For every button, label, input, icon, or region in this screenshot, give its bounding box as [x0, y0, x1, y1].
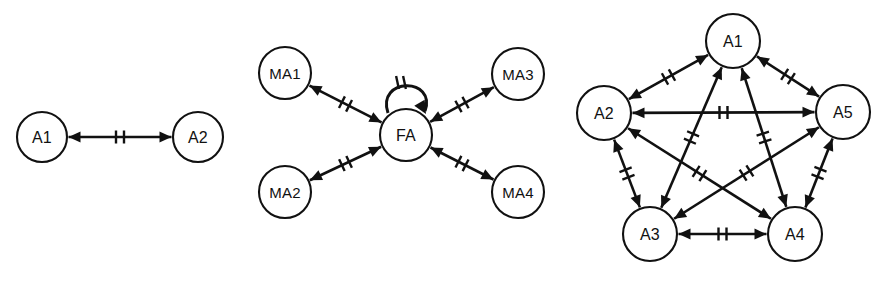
figure-canvas: A1A2MA1MA2MA3MA4FAA1A2A5A3A4: [0, 0, 872, 281]
edge-a1-a2[interactable]: [69, 131, 172, 144]
node-label: A1: [723, 33, 743, 50]
arrowhead-end: [777, 194, 787, 207]
arrowhead-end: [631, 194, 641, 207]
edge-a2-a4[interactable]: [628, 128, 771, 218]
arrowhead-start: [757, 56, 770, 67]
arrowhead-start: [69, 132, 81, 143]
edge-tick-mark: [781, 69, 788, 80]
node-ma1[interactable]: MA1: [259, 47, 311, 99]
arrowhead-end: [806, 85, 819, 96]
diagram-svg: A1A2MA1MA2MA3MA4FAA1A2A5A3A4: [0, 0, 872, 281]
two-agent-topology-edges: [69, 131, 172, 144]
edge-a4-a5[interactable]: [805, 139, 833, 208]
edge-line: [629, 55, 708, 99]
node-ma3[interactable]: MA3: [492, 48, 544, 100]
node-label: A3: [640, 226, 660, 243]
fully-connected-topology-nodes: A1A2A5A3A4: [577, 14, 870, 261]
node-label: A2: [188, 129, 208, 146]
edge-line: [309, 86, 381, 123]
edge-a1-a4[interactable]: [740, 68, 788, 207]
edge-line: [661, 67, 721, 208]
edge-fa-ma1[interactable]: [309, 86, 381, 123]
arrowhead-start: [632, 107, 644, 118]
edge-tick-mark: [693, 166, 700, 177]
edge-fa-ma4[interactable]: [431, 147, 494, 179]
edge-a1-a2[interactable]: [629, 55, 708, 99]
edge-fa-ma3[interactable]: [430, 87, 494, 122]
facilitator-star-topology-nodes: MA1MA2MA3MA4FA: [259, 47, 544, 218]
node-a5[interactable]: A5: [816, 85, 870, 139]
edge-a1-a5[interactable]: [757, 56, 819, 96]
edge-line: [628, 128, 771, 218]
node-label: MA4: [502, 184, 533, 201]
edge-a3-a4[interactable]: [679, 228, 767, 241]
node-label: A2: [594, 105, 614, 122]
edge-a2-a3[interactable]: [613, 140, 640, 208]
node-label: MA2: [269, 184, 300, 201]
node-label: A1: [32, 129, 52, 146]
node-ma4[interactable]: MA4: [492, 166, 544, 218]
node-a3[interactable]: A3: [623, 207, 677, 261]
edge-tick-mark: [788, 73, 795, 84]
edge-tick-mark: [699, 170, 706, 181]
node-a2[interactable]: A2: [577, 86, 631, 140]
node-fa[interactable]: FA: [380, 109, 432, 161]
node-label: FA: [396, 127, 416, 144]
edge-a1-a3[interactable]: [661, 67, 722, 208]
node-label: MA3: [502, 66, 533, 83]
arrowhead-end: [755, 229, 767, 240]
arrowhead-end: [160, 132, 172, 143]
node-a1[interactable]: A1: [17, 112, 67, 162]
node-a2[interactable]: A2: [173, 112, 223, 162]
node-a4[interactable]: A4: [768, 207, 822, 261]
arrowhead-start: [613, 140, 623, 153]
node-ma2[interactable]: MA2: [259, 166, 311, 218]
edge-line: [742, 68, 787, 207]
node-label: MA1: [269, 65, 300, 82]
edge-a2-a5[interactable]: [632, 106, 814, 119]
arrowhead-start: [740, 68, 750, 81]
arrowhead-start: [679, 229, 691, 240]
arrowhead-end: [802, 107, 814, 118]
node-label: A5: [833, 104, 853, 121]
edge-fa-ma2[interactable]: [310, 147, 381, 181]
node-a1[interactable]: A1: [706, 14, 760, 68]
edge-line: [632, 112, 814, 113]
node-label: A4: [785, 226, 805, 243]
